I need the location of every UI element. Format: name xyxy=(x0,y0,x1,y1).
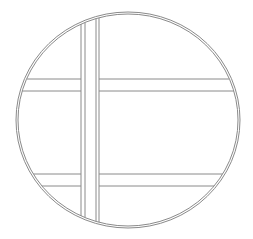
circle-grid-diagram xyxy=(0,0,253,239)
vertical-strip-left xyxy=(81,0,85,239)
outer-circle xyxy=(16,12,240,228)
vertical-strip-right xyxy=(96,0,99,239)
horizontal-strip-top xyxy=(0,79,253,91)
